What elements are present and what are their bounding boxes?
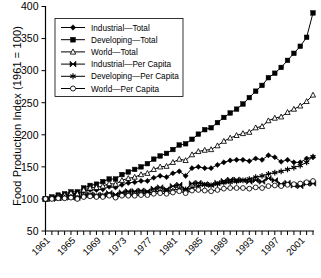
x-tick-label: 2001 <box>284 235 307 258</box>
chart-legend: Industrial—TotalDeveloping—TotalWorld—To… <box>55 19 183 97</box>
y-tick-label: 400 <box>21 0 39 12</box>
legend-label: Industrial—Total <box>91 24 150 33</box>
legend-label: World—Total <box>91 48 138 57</box>
x-tick-label: 1969 <box>80 235 103 258</box>
y-axis-ticks: 50100150200250300350400 <box>21 0 46 237</box>
legend-label: Developing—Total <box>91 36 158 45</box>
y-tick-label: 200 <box>21 129 39 141</box>
chart-container: Food Production Index (1961 = 100) 50100… <box>0 0 321 278</box>
x-tick-label: 1981 <box>157 235 180 258</box>
x-tick-label: 1977 <box>131 235 154 258</box>
x-tick-label: 1961 <box>29 235 52 258</box>
x-axis-ticks: 1961196519691973197719811985198919931997… <box>29 231 313 257</box>
x-tick-label: 1985 <box>182 235 205 258</box>
y-tick-label: 50 <box>27 225 39 237</box>
legend-label: Industrial—Per Capita <box>91 60 172 69</box>
y-tick-label: 150 <box>21 161 39 173</box>
x-tick-label: 1993 <box>233 235 256 258</box>
y-tick-label: 250 <box>21 97 39 109</box>
legend-label: World—Per Capita <box>91 85 160 94</box>
y-tick-label: 100 <box>21 193 39 205</box>
legend-label: Developing—Per Capita <box>91 72 179 81</box>
chart-plot: 50100150200250300350400 1961196519691973… <box>0 0 321 278</box>
y-tick-label: 300 <box>21 64 39 76</box>
x-tick-label: 1997 <box>258 235 281 258</box>
x-tick-label: 1965 <box>55 235 78 258</box>
x-tick-label: 1973 <box>106 235 129 258</box>
y-tick-label: 350 <box>21 32 39 44</box>
x-tick-label: 1989 <box>208 235 231 258</box>
